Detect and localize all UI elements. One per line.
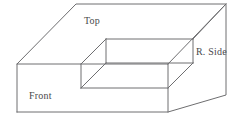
step-riser-fill: [81, 64, 168, 88]
stepped-block-figure: [0, 0, 244, 121]
label-right-side: R. Side: [196, 46, 227, 57]
label-front: Front: [29, 90, 52, 101]
diagram-canvas: Top R. Side Front: [0, 0, 244, 121]
label-top: Top: [84, 15, 100, 26]
